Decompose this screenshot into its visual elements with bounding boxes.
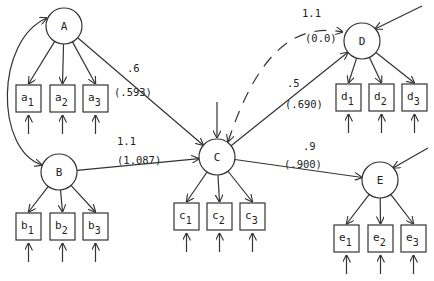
- indicator-c1: c1: [174, 203, 199, 230]
- estimate-c-e: (.900): [284, 158, 322, 170]
- indicator-subscript: 2: [62, 97, 68, 108]
- indicator-b1: b1: [16, 213, 41, 240]
- indicator-subscript: 3: [414, 96, 420, 107]
- loading-arrow-d1: [349, 58, 357, 83]
- path-c-d-dashed-covariance: [228, 30, 343, 142]
- indicator-a1: a1: [16, 85, 41, 112]
- latent-node-b: B: [41, 154, 77, 190]
- estimate-c-d: (.690): [285, 98, 323, 110]
- indicator-subscript: 2: [62, 225, 68, 236]
- indicator-e2: e2: [368, 225, 393, 252]
- indicator-b2: b2: [50, 213, 75, 240]
- coef-c-d: .5: [287, 77, 300, 89]
- indicator-subscript: 1: [346, 237, 352, 248]
- indicator-subscript: 1: [348, 96, 354, 107]
- coef-c-d-dashed: 1.1: [302, 7, 321, 19]
- estimate-c-d-dashed: (0.0): [305, 32, 337, 44]
- indicator-subscript: 3: [413, 237, 419, 248]
- indicator-a2: a2: [50, 85, 75, 112]
- loading-arrow-b1: [29, 186, 49, 212]
- loading-arrow-e1: [347, 194, 370, 224]
- loading-arrow-d3: [376, 52, 415, 83]
- indicator-d3: d3: [402, 84, 427, 111]
- loading-arrow-e3: [391, 194, 414, 224]
- loading-arrow-a1: [29, 41, 55, 84]
- indicator-e3: e3: [401, 225, 426, 252]
- latent-label: D: [359, 35, 366, 48]
- loading-arrow-a3: [72, 42, 95, 84]
- diagram-svg: .6 (.593) 1.1 (1.087) .5 (.690) .9 (.900…: [0, 0, 434, 281]
- latent-node-a: A: [46, 8, 82, 44]
- loading-arrow-c3: [228, 171, 253, 202]
- loading-arrow-d2: [369, 57, 381, 83]
- loading-arrow-c2: [218, 175, 220, 202]
- indicator-c2: c2: [207, 203, 232, 230]
- latent-label: E: [377, 174, 384, 187]
- indicator-subscript: 1: [28, 97, 34, 108]
- indicator-subscript: 3: [252, 215, 258, 226]
- latent-label: B: [56, 166, 63, 179]
- indicator-subscript: 3: [95, 225, 101, 236]
- indicator-subscript: 1: [186, 215, 192, 226]
- path-diagram: .6 (.593) 1.1 (1.087) .5 (.690) .9 (.900…: [0, 0, 434, 281]
- coef-a-c: .6: [127, 62, 140, 74]
- indicator-c3: c3: [240, 203, 265, 230]
- latent-node-d: D: [344, 23, 380, 59]
- indicator-e1: e1: [334, 225, 359, 252]
- indicator-d2: d2: [369, 84, 394, 111]
- indicator-a3: a3: [83, 85, 108, 112]
- indicator-d1: d1: [336, 84, 361, 111]
- loading-arrow-b2: [61, 190, 63, 212]
- disturbance-arrow-e: [393, 148, 428, 168]
- indicator-b3: b3: [83, 213, 108, 240]
- latent-node-e: E: [362, 162, 398, 198]
- loading-arrow-b3: [71, 185, 96, 212]
- nodes: ABCDEa1a2a3b1b2b3c1c2c3d1d2d3e1e2e3: [16, 8, 427, 252]
- latent-node-c: C: [199, 139, 235, 175]
- indicator-subscript: 2: [380, 237, 386, 248]
- path-c-to-d: [231, 52, 348, 146]
- coef-c-e: .9: [303, 140, 316, 152]
- indicator-subscript: 2: [381, 96, 387, 107]
- latent-label: A: [61, 20, 68, 33]
- loading-arrow-c1: [187, 172, 208, 202]
- indicator-subscript: 3: [95, 97, 101, 108]
- indicator-subscript: 2: [219, 215, 225, 226]
- latent-label: C: [214, 151, 221, 164]
- disturbance-arrow-d: [375, 6, 422, 29]
- indicator-subscript: 1: [28, 225, 34, 236]
- coef-b-c: 1.1: [117, 135, 136, 147]
- loading-arrow-a2: [63, 44, 64, 84]
